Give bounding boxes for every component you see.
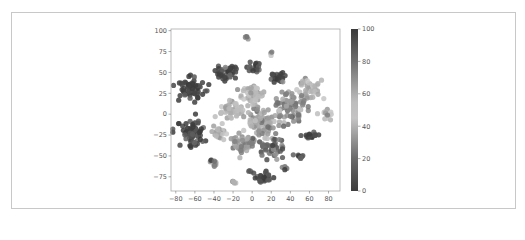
colorbar-tick-label: 100 <box>362 25 374 33</box>
data-point <box>282 167 287 172</box>
data-point <box>195 95 200 100</box>
data-point <box>301 98 306 103</box>
data-point <box>266 172 271 177</box>
data-point <box>315 81 320 86</box>
data-point <box>273 113 278 118</box>
data-point <box>200 92 205 97</box>
data-point <box>236 107 241 112</box>
data-point <box>277 108 282 113</box>
plot-area <box>170 29 340 191</box>
data-point <box>177 143 182 148</box>
data-point <box>197 130 202 135</box>
data-point <box>269 50 274 55</box>
data-point <box>310 95 315 100</box>
data-point <box>271 125 276 130</box>
data-point <box>263 147 268 152</box>
data-point <box>280 155 285 160</box>
data-point <box>241 128 246 133</box>
data-point <box>298 133 303 138</box>
data-point <box>233 75 238 80</box>
data-point <box>246 169 251 174</box>
data-point <box>294 87 299 92</box>
data-point <box>190 86 195 91</box>
data-point <box>236 131 241 136</box>
data-point <box>280 146 285 151</box>
data-point <box>276 123 281 128</box>
data-point <box>241 88 246 93</box>
data-point <box>231 179 236 184</box>
data-point <box>221 137 226 142</box>
data-point <box>265 143 270 148</box>
data-point <box>264 157 269 162</box>
x-tick-label: −60 <box>188 195 202 203</box>
data-point <box>220 121 225 126</box>
x-axis: −80−60−40−20020406080 <box>169 191 333 203</box>
data-point <box>305 78 310 83</box>
data-point <box>261 175 266 180</box>
y-tick-label: 100 <box>155 27 167 35</box>
colorbar-tick-label: 60 <box>362 90 370 98</box>
data-point <box>219 110 224 115</box>
colorbar-ticks: 020406080100 <box>358 25 374 195</box>
y-tick-label: 75 <box>159 48 167 56</box>
data-point <box>277 137 282 142</box>
data-point <box>288 114 293 119</box>
data-point <box>248 59 253 64</box>
data-point <box>291 152 296 157</box>
data-point <box>226 106 231 111</box>
data-point <box>251 68 256 73</box>
data-point <box>190 81 195 86</box>
data-point <box>262 110 267 115</box>
data-point <box>265 136 270 141</box>
data-point <box>255 107 260 112</box>
y-tick-label: 0 <box>163 110 167 118</box>
data-point <box>300 79 305 84</box>
data-point <box>281 124 286 129</box>
data-point <box>272 80 277 85</box>
data-point <box>192 91 197 96</box>
data-point <box>176 98 181 103</box>
data-point <box>198 137 203 142</box>
data-point <box>183 121 188 126</box>
data-point <box>240 108 245 113</box>
x-tick-label: −20 <box>226 195 240 203</box>
y-axis: −75−50−250255075100 <box>153 27 171 181</box>
data-point <box>246 110 251 115</box>
data-point <box>237 155 242 160</box>
data-point <box>265 131 270 136</box>
data-point <box>256 128 261 133</box>
data-point <box>321 96 326 101</box>
data-point <box>181 86 186 91</box>
data-point <box>271 175 276 180</box>
data-point <box>233 144 238 149</box>
data-point <box>235 87 240 92</box>
data-point <box>192 74 197 79</box>
data-point <box>188 143 193 148</box>
x-tick-label: 0 <box>250 195 254 203</box>
data-point <box>266 115 271 120</box>
data-point <box>299 93 304 98</box>
y-tick-label: −75 <box>153 173 167 181</box>
colorbar: 020406080100 <box>351 25 374 195</box>
data-point <box>190 124 195 129</box>
y-tick-label: 50 <box>159 69 167 77</box>
data-point <box>239 144 244 149</box>
x-tick-label: 40 <box>286 195 294 203</box>
data-point <box>296 112 301 117</box>
data-point <box>241 97 246 102</box>
data-point <box>325 112 330 117</box>
data-point <box>298 155 303 160</box>
data-point <box>265 124 270 129</box>
data-point <box>178 93 183 98</box>
data-point <box>214 133 219 138</box>
data-point <box>245 103 250 108</box>
data-point <box>182 92 187 97</box>
y-tick-label: −50 <box>153 152 167 160</box>
data-point <box>253 118 258 123</box>
data-point <box>280 79 285 84</box>
colorbar-tick-label: 40 <box>362 123 370 131</box>
data-point <box>278 113 283 118</box>
data-point <box>192 140 197 145</box>
data-point <box>273 152 278 157</box>
data-point <box>227 98 232 103</box>
